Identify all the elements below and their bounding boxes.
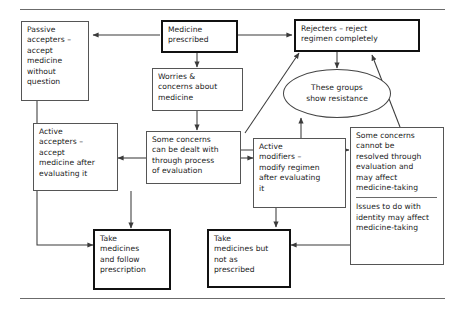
node-unresolved-divider (356, 197, 437, 198)
node-take-medicines-not-prescribed[interactable]: Take medicines but not as prescribed (207, 229, 291, 288)
node-passive-accepters-label: Passive accepters – accept medicine with… (27, 25, 84, 87)
node-active-modifiers[interactable]: Active modifiers – modify regimen after … (253, 138, 346, 208)
flowchart-diagram: Passive accepters – accept medicine with… (0, 0, 462, 313)
diagram-canvas: Passive accepters – accept medicine with… (0, 0, 462, 313)
node-these-groups-resistance[interactable]: These groups show resistance (283, 69, 391, 118)
node-active-modifiers-label: Active modifiers – modify regimen after … (259, 142, 341, 194)
node-some-concerns-dealt[interactable]: Some concerns can be dealt with through … (146, 131, 241, 184)
node-active-accepters[interactable]: Active accepters – accept medicine after… (33, 123, 118, 191)
node-worries-concerns-label: Worries & concerns about medicine (158, 72, 238, 103)
node-worries-concerns[interactable]: Worries & concerns about medicine (152, 68, 243, 111)
node-some-concerns-unresolved[interactable]: Some concerns cannot be resolved through… (350, 127, 444, 265)
node-these-groups-resistance-label: These groups show resistance (306, 83, 368, 104)
node-active-accepters-label: Active accepters – accept medicine after… (39, 127, 113, 179)
node-some-concerns-dealt-label: Some concerns can be dealt with through … (152, 135, 236, 177)
node-rejecters-label: Rejecters – reject regimen completely (301, 24, 414, 45)
bottom-rule (20, 298, 445, 299)
node-take-medicines-not-prescribed-label: Take medicines but not as prescribed (214, 234, 285, 276)
node-medicine-prescribed[interactable]: Medicine prescribed (161, 20, 238, 53)
top-rule (20, 9, 445, 10)
node-some-concerns-unresolved-label-part2: Issues to do with identity may affect me… (356, 202, 439, 233)
node-passive-accepters[interactable]: Passive accepters – accept medicine with… (21, 21, 89, 101)
node-take-medicines-follow-label: Take medicines and follow prescription (100, 234, 165, 276)
node-medicine-prescribed-label: Medicine prescribed (168, 25, 232, 46)
node-rejecters[interactable]: Rejecters – reject regimen completely (294, 19, 420, 52)
node-take-medicines-follow[interactable]: Take medicines and follow prescription (93, 229, 171, 290)
node-some-concerns-unresolved-label-part1: Some concerns cannot be resolved through… (356, 131, 439, 193)
